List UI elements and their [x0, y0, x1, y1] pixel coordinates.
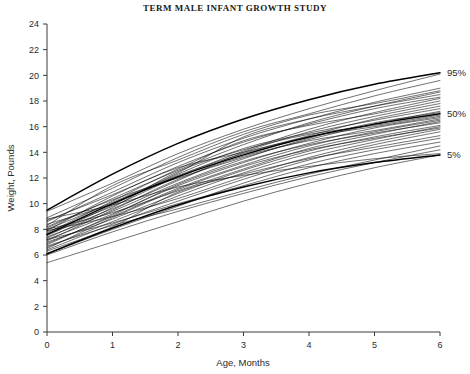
y-tick-label: 24: [29, 19, 39, 29]
y-tick-label: 10: [29, 199, 39, 209]
x-tick-label: 5: [372, 340, 377, 350]
x-tick-label: 1: [110, 340, 115, 350]
x-tick-label: 2: [175, 340, 180, 350]
percentile-label: 5%: [447, 149, 461, 160]
percentile-annotations: 95%50%5%: [447, 67, 467, 160]
y-tick-label: 0: [34, 327, 39, 337]
x-axis-ticks: 0123456: [44, 332, 442, 350]
subject-trajectories: [47, 74, 440, 263]
x-tick-label: 4: [306, 340, 311, 350]
x-axis-title: Age, Months: [216, 357, 270, 368]
x-tick-label: 0: [44, 340, 49, 350]
y-axis-title: Weight, Pounds: [5, 144, 16, 211]
y-tick-label: 14: [29, 148, 39, 158]
chart-plot-area: 024681012141618202224 0123456 95%50%5% A…: [0, 0, 470, 374]
percentile-label: 95%: [447, 67, 467, 78]
y-tick-label: 12: [29, 173, 39, 183]
x-tick-label: 3: [241, 340, 246, 350]
y-tick-label: 22: [29, 45, 39, 55]
x-tick-label: 6: [437, 340, 442, 350]
y-tick-label: 20: [29, 71, 39, 81]
y-axis-ticks: 024681012141618202224: [29, 19, 47, 337]
y-tick-label: 6: [34, 250, 39, 260]
y-tick-label: 18: [29, 96, 39, 106]
y-tick-label: 2: [34, 302, 39, 312]
percentile-label: 50%: [447, 108, 467, 119]
y-tick-label: 8: [34, 225, 39, 235]
y-tick-label: 4: [34, 276, 39, 286]
y-tick-label: 16: [29, 122, 39, 132]
growth-chart-figure: TERM MALE INFANT GROWTH STUDY 0246810121…: [0, 0, 470, 374]
